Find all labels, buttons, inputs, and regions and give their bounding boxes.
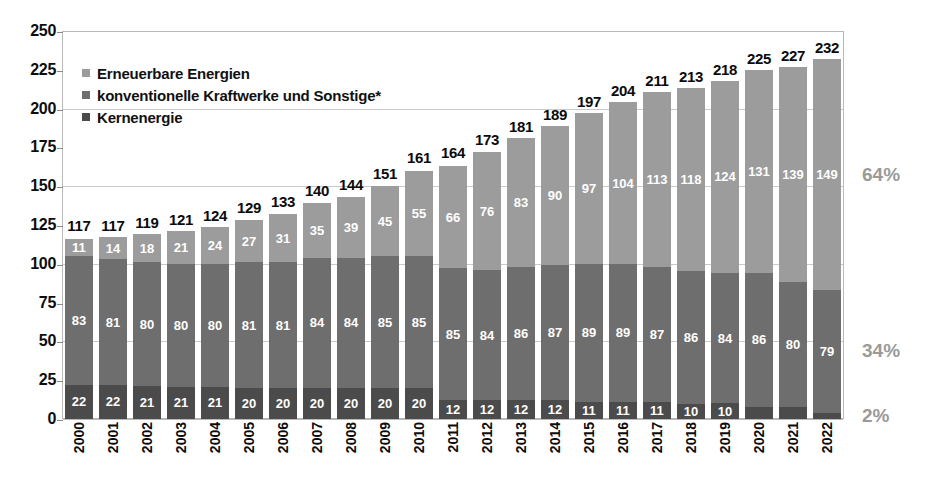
segment-2007-ee[interactable]: 35	[303, 203, 330, 257]
segment-2001-kw[interactable]: 81	[99, 259, 126, 385]
segment-2019-ke[interactable]: 10	[711, 403, 738, 419]
segment-2020-ee[interactable]: 131	[745, 70, 772, 273]
bar-2003[interactable]: 218021	[167, 231, 194, 419]
segment-2000-ke[interactable]: 22	[65, 385, 92, 419]
total-label-2000: 117	[67, 217, 90, 234]
segment-2020-kw[interactable]: 86	[745, 273, 772, 406]
segment-2003-ke[interactable]: 21	[167, 387, 194, 419]
bar-2017[interactable]: 1138711	[643, 92, 670, 419]
segment-2004-kw[interactable]: 80	[201, 264, 228, 387]
segment-2008-ke[interactable]: 20	[337, 388, 364, 419]
segment-2005-ee[interactable]: 27	[235, 220, 262, 262]
bar-2022[interactable]: 149794	[813, 59, 840, 419]
segment-2004-ke[interactable]: 21	[201, 387, 228, 419]
segment-2006-ee[interactable]: 31	[269, 214, 296, 262]
bar-2006[interactable]: 318120	[269, 213, 296, 419]
segment-2018-ee[interactable]: 118	[677, 88, 704, 270]
x-axis: 2000200120022003200420052006200720082009…	[62, 422, 844, 492]
segment-2008-ee[interactable]: 39	[337, 197, 364, 258]
legend-item-konventionelle-kraftwerke[interactable]: konventionelle Kraftwerke und Sonstige*	[82, 84, 381, 106]
bar-2010[interactable]: 558520	[405, 169, 432, 419]
segment-2002-ee[interactable]: 18	[133, 234, 160, 262]
segment-2011-ke[interactable]: 12	[439, 400, 466, 419]
segment-2007-ke[interactable]: 20	[303, 388, 330, 419]
segment-2012-kw[interactable]: 84	[473, 270, 500, 400]
bar-2020[interactable]: 131868	[745, 70, 772, 419]
segment-2014-ee[interactable]: 90	[541, 126, 568, 266]
total-label-2011: 164	[441, 144, 465, 161]
segment-2015-ke[interactable]: 11	[575, 402, 602, 419]
total-label-2021: 227	[781, 47, 805, 64]
segment-2009-kw[interactable]: 85	[371, 256, 398, 388]
segment-2001-ke[interactable]: 22	[99, 385, 126, 419]
segment-2022-ke[interactable]: 4	[813, 413, 840, 419]
bar-2002[interactable]: 188021	[133, 234, 160, 419]
segment-2001-ee[interactable]: 14	[99, 237, 126, 259]
segment-2013-kw[interactable]: 86	[507, 267, 534, 400]
segment-2006-ke[interactable]: 20	[269, 388, 296, 419]
segment-2009-ke[interactable]: 20	[371, 388, 398, 419]
bar-2018[interactable]: 1188610	[677, 88, 704, 419]
segment-2007-kw[interactable]: 84	[303, 258, 330, 388]
segment-2000-kw[interactable]: 83	[65, 256, 92, 385]
bar-2019[interactable]: 1248410	[711, 81, 738, 419]
segment-2006-kw[interactable]: 81	[269, 262, 296, 388]
segment-2013-ee[interactable]: 83	[507, 138, 534, 267]
segment-2013-ke[interactable]: 12	[507, 400, 534, 419]
legend-item-erneuerbare-energien[interactable]: Erneuerbare Energien	[82, 62, 381, 84]
segment-2022-kw[interactable]: 79	[813, 290, 840, 413]
segment-2014-kw[interactable]: 87	[541, 265, 568, 400]
segment-2014-ke[interactable]: 12	[541, 400, 568, 419]
segment-2020-ke[interactable]: 8	[745, 407, 772, 419]
bar-2011[interactable]: 668512	[439, 164, 466, 419]
bar-2013[interactable]: 838612	[507, 138, 534, 419]
segment-2009-ee[interactable]: 45	[371, 186, 398, 256]
segment-2019-ee[interactable]: 124	[711, 81, 738, 273]
segment-2003-kw[interactable]: 80	[167, 264, 194, 387]
segment-2010-ee[interactable]: 55	[405, 171, 432, 256]
segment-2017-kw[interactable]: 87	[643, 267, 670, 402]
segment-2018-kw[interactable]: 86	[677, 271, 704, 404]
segment-2015-ee[interactable]: 97	[575, 113, 602, 264]
segment-2012-ke[interactable]: 12	[473, 400, 500, 419]
bar-2021[interactable]: 139808	[779, 67, 806, 419]
bar-2008[interactable]: 398420	[337, 196, 364, 419]
segment-2011-kw[interactable]: 85	[439, 268, 466, 400]
segment-2019-kw[interactable]: 84	[711, 273, 738, 403]
segment-2016-kw[interactable]: 89	[609, 264, 636, 402]
segment-2010-ke[interactable]: 20	[405, 388, 432, 419]
segment-2011-ee[interactable]: 66	[439, 166, 466, 268]
legend-item-kernenergie[interactable]: Kernenergie	[82, 106, 381, 128]
segment-2002-ke[interactable]: 21	[133, 386, 160, 419]
bar-2014[interactable]: 908712	[541, 126, 568, 419]
segment-2004-ee[interactable]: 24	[201, 227, 228, 264]
bar-2016[interactable]: 1048911	[609, 102, 636, 419]
bar-2005[interactable]: 278120	[235, 219, 262, 419]
bar-2001[interactable]: 148122	[99, 237, 126, 419]
segment-2010-kw[interactable]: 85	[405, 256, 432, 388]
bar-2009[interactable]: 458520	[371, 185, 398, 419]
segment-2016-ee[interactable]: 104	[609, 102, 636, 263]
segment-2017-ke[interactable]: 11	[643, 402, 670, 419]
bar-2015[interactable]: 978911	[575, 113, 602, 419]
segment-2021-ee[interactable]: 139	[779, 67, 806, 283]
segment-2008-kw[interactable]: 84	[337, 258, 364, 388]
segment-2005-ke[interactable]: 20	[235, 388, 262, 419]
segment-2018-ke[interactable]: 10	[677, 404, 704, 419]
bar-2007[interactable]: 358420	[303, 202, 330, 419]
bar-2012[interactable]: 768412	[473, 151, 500, 419]
segment-2005-kw[interactable]: 81	[235, 262, 262, 388]
x-axis-tick-2018: 2018	[683, 422, 699, 453]
segment-2021-ke[interactable]: 8	[779, 407, 806, 419]
segment-2016-ke[interactable]: 11	[609, 402, 636, 419]
bar-2000[interactable]: 118322	[65, 237, 92, 419]
segment-2002-kw[interactable]: 80	[133, 262, 160, 386]
segment-2000-ee[interactable]: 11	[65, 239, 92, 256]
segment-2021-kw[interactable]: 80	[779, 282, 806, 406]
segment-2012-ee[interactable]: 76	[473, 152, 500, 270]
segment-2017-ee[interactable]: 113	[643, 92, 670, 267]
bar-2004[interactable]: 248021	[201, 227, 228, 419]
segment-2015-kw[interactable]: 89	[575, 264, 602, 402]
segment-2022-ee[interactable]: 149	[813, 59, 840, 290]
segment-2003-ee[interactable]: 21	[167, 231, 194, 263]
